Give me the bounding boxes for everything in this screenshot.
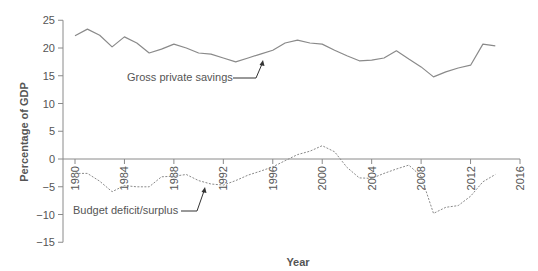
arrowhead-icon [202, 187, 207, 193]
series-layer [75, 29, 495, 213]
x-tick-label: 2012 [465, 166, 477, 190]
y-tick-label: 25 [43, 14, 55, 26]
annotation-budget-arrow [181, 191, 204, 211]
x-tick-label: 1980 [69, 166, 81, 190]
y-tick-label: 10 [43, 98, 55, 110]
annotation-savings-label: Gross private savings [127, 71, 233, 83]
y-axis-title: Percentage of GDP [18, 82, 30, 182]
y-tick-label: 5 [49, 125, 55, 137]
x-tick-label: 2008 [415, 166, 427, 190]
annotation-savings: Gross private savings [127, 60, 265, 83]
y-tick-label: −10 [36, 209, 55, 221]
y-tick-label: 0 [49, 153, 55, 165]
x-tick-label: 2016 [514, 166, 526, 190]
y-axis: 2520151050−5−10−15 [36, 14, 63, 248]
arrowhead-icon [260, 60, 265, 66]
y-tick-label: −15 [36, 236, 55, 248]
y-tick-label: −5 [42, 181, 55, 193]
chart-canvas: 2520151050−5−10−15 198019841988199219962… [0, 0, 538, 271]
x-axis: 1980198419881992199620002004200820122016 [63, 159, 526, 190]
y-tick-label: 15 [43, 70, 55, 82]
series-gross-private-savings [75, 29, 495, 77]
x-axis-title: Year [286, 256, 310, 268]
annotation-budget: Budget deficit/surplus [73, 187, 207, 216]
annotation-budget-label: Budget deficit/surplus [73, 204, 179, 216]
x-tick-label: 1984 [118, 166, 130, 190]
x-tick-label: 1988 [168, 166, 180, 190]
annotation-savings-arrow [233, 64, 262, 78]
y-tick-label: 20 [43, 42, 55, 54]
x-tick-label: 2000 [316, 166, 328, 190]
x-tick-label: 1992 [217, 166, 229, 190]
x-tick-label: 1996 [267, 166, 279, 190]
